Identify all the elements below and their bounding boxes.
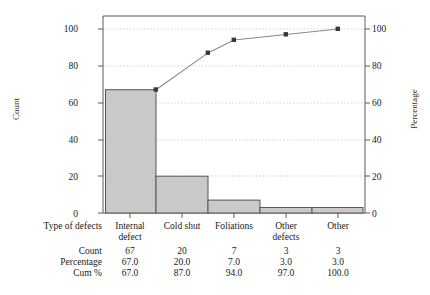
table-cell-count-1: 20 xyxy=(156,246,208,257)
category-label-other: Other xyxy=(312,221,364,232)
table-cell-percentage-2: 7.0 xyxy=(208,257,260,268)
table-cell-cum-0: 67.0 xyxy=(105,268,155,279)
category-label-cold-shut: Cold shut xyxy=(156,221,208,232)
category-label-line2: defect xyxy=(105,232,155,243)
table-cell-percentage-1: 20.0 xyxy=(156,257,208,268)
bar-other xyxy=(312,208,363,214)
row-label-type-of-defects: Type of defects xyxy=(2,221,102,232)
table-cell-percentage-3: 3.0 xyxy=(260,257,312,268)
category-label-line1: Cold shut xyxy=(156,221,208,232)
row-label-percentage: Percentage xyxy=(2,257,102,268)
category-label-internal-defect: Internal defect xyxy=(105,221,155,242)
category-label-line1: Foliations xyxy=(208,221,260,232)
table-cell-count-4: 3 xyxy=(312,246,364,257)
category-label-line2: defects xyxy=(260,232,312,243)
category-label-line1: Other xyxy=(312,221,364,232)
bar-other-defects xyxy=(260,208,312,214)
cumulative-markers xyxy=(154,27,340,92)
table-cell-cum-3: 97.0 xyxy=(260,268,312,279)
table-cell-cum-1: 87.0 xyxy=(156,268,208,279)
category-label-other-defects: Other defects xyxy=(260,221,312,242)
table-cell-count-3: 3 xyxy=(260,246,312,257)
table-cell-cum-4: 100.0 xyxy=(312,268,364,279)
row-label-cum-pct: Cum % xyxy=(2,268,102,279)
bar-series xyxy=(106,90,364,213)
y-axis-right-ticks xyxy=(365,29,370,213)
table-cell-count-0: 67 xyxy=(105,246,155,257)
bar-cold-shut xyxy=(156,176,208,213)
y-axis-left-ticks xyxy=(98,29,103,213)
table-cell-percentage-4: 3.0 xyxy=(312,257,364,268)
category-label-line1: Internal xyxy=(105,221,155,232)
bar-foliations xyxy=(208,200,260,213)
cumulative-line xyxy=(156,29,338,90)
category-label-line1: Other xyxy=(260,221,312,232)
pareto-chart: Count Percentage 100 80 60 40 20 0 100 8… xyxy=(0,0,430,295)
table-cell-count-2: 7 xyxy=(208,246,260,257)
bar-internal-defect xyxy=(106,90,157,213)
x-axis-ticks xyxy=(130,213,338,218)
category-label-foliations: Foliations xyxy=(208,221,260,232)
table-cell-percentage-0: 67.0 xyxy=(105,257,155,268)
table-cell-cum-2: 94.0 xyxy=(208,268,260,279)
row-label-count: Count xyxy=(2,246,102,257)
